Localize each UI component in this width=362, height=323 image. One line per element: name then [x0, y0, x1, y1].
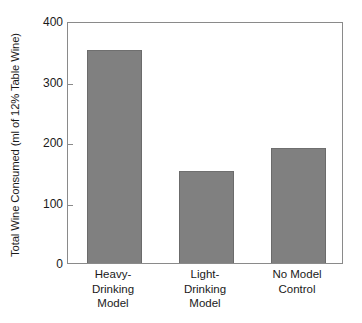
y-axis-tick-mark [68, 144, 73, 145]
bar [271, 148, 326, 263]
bar [179, 171, 234, 263]
y-axis-title: Total Wine Consumed (ml of 12% Table Win… [9, 33, 21, 257]
plot-area [67, 22, 343, 264]
x-axis-category-label-line: Model [159, 296, 251, 311]
bar-chart-figure: Total Wine Consumed (ml of 12% Table Win… [0, 0, 362, 323]
x-axis-category-label: Light-DrinkingModel [159, 267, 251, 311]
y-axis-tick-mark [68, 84, 73, 85]
y-axis-tick-label: 300 [23, 77, 63, 89]
x-axis-category-label-line: Model [67, 296, 159, 311]
x-axis-category-label: Heavy-DrinkingModel [67, 267, 159, 311]
y-axis-tick-label: 100 [23, 198, 63, 210]
x-axis-category-label-line: Drinking [67, 282, 159, 297]
y-axis-tick-label: 200 [23, 137, 63, 149]
bar [87, 50, 142, 263]
y-axis-tick-label: 400 [23, 16, 63, 28]
y-axis-tick-label: 0 [23, 258, 63, 270]
x-axis-category-label-line: Control [251, 282, 343, 297]
x-axis-category-label-line: Heavy- [67, 267, 159, 282]
y-axis-tick-mark [68, 205, 73, 206]
x-axis-category-label-line: Drinking [159, 282, 251, 297]
x-axis-category-label-line: No Model [251, 267, 343, 282]
x-axis-category-labels: Heavy-DrinkingModelLight-DrinkingModelNo… [67, 267, 343, 319]
x-axis-category-label: No ModelControl [251, 267, 343, 296]
x-axis-category-label-line: Light- [159, 267, 251, 282]
